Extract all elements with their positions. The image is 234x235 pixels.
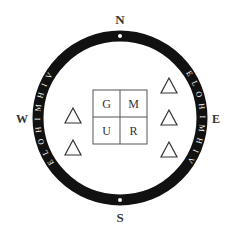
grid-cell-m: M [128,97,139,111]
compass-west: W [16,112,28,126]
triangle-icon [65,140,81,155]
north-dot [118,34,122,38]
ring-text-right: E L O H I M H I V [184,69,207,167]
compass-south: S [116,210,123,225]
grid-cell-r: R [129,124,137,138]
triangle-icon [161,110,177,125]
grid-cell-g: G [102,97,111,111]
south-dot [118,198,122,202]
triangle-icon [65,108,81,123]
triangle-icon [161,78,177,93]
compass-north: N [115,12,125,27]
ring-text-left: E L O H I M H I V [33,69,56,167]
seal-diagram: N S W E E L O H I M H I V E L O H I M H … [0,0,234,235]
letter-grid: G M U R [93,90,147,144]
triangle-icon [161,142,177,157]
grid-cell-u: U [102,124,111,138]
compass-east: E [212,112,220,126]
